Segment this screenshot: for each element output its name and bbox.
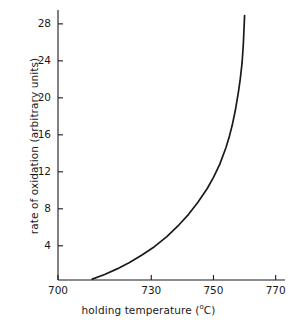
x-tick-label: 770: [256, 284, 296, 296]
tick-marks: [58, 24, 276, 280]
x-axis-label: holding temperature (oC): [0, 303, 297, 316]
x-tick-label: 700: [38, 284, 78, 296]
y-tick-label: 12: [25, 165, 51, 177]
axes: [58, 10, 285, 280]
x-axis-label-main: holding temperature (: [82, 304, 200, 316]
x-tick-label: 730: [131, 284, 171, 296]
y-tick-label: 4: [25, 239, 51, 251]
x-tick-label: 750: [193, 284, 233, 296]
y-tick-label: 16: [25, 128, 51, 140]
chart-figure: rate of oxidation (arbitrary units) 4812…: [0, 0, 297, 331]
y-tick-label: 20: [25, 91, 51, 103]
data-series-line: [92, 16, 244, 280]
x-axis-label-tail: C): [204, 304, 216, 316]
y-tick-label: 8: [25, 202, 51, 214]
y-tick-label: 24: [25, 54, 51, 66]
y-tick-label: 28: [25, 17, 51, 29]
